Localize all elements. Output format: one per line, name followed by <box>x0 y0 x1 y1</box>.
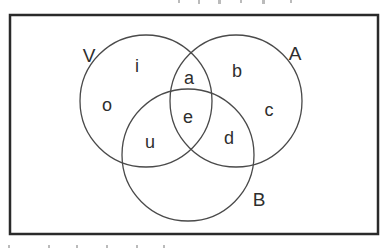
set-circle-a <box>170 35 302 167</box>
element-label-o: o <box>102 95 112 115</box>
clipped-title-remnant <box>178 0 292 4</box>
element-label-i: i <box>135 56 139 76</box>
venn-diagram: VAB ioabceud <box>0 0 380 248</box>
set-label-b: B <box>253 189 266 210</box>
element-label-c: c <box>265 100 274 120</box>
set-label-a: A <box>289 43 302 64</box>
universe-frame <box>10 15 378 234</box>
element-labels: ioabceud <box>102 56 274 152</box>
element-label-e: e <box>183 107 193 127</box>
set-label-v: V <box>83 45 96 66</box>
set-circles <box>80 35 302 221</box>
element-label-u: u <box>145 132 155 152</box>
element-label-d: d <box>224 128 234 148</box>
element-label-b: b <box>232 61 242 81</box>
element-label-a: a <box>184 68 195 88</box>
